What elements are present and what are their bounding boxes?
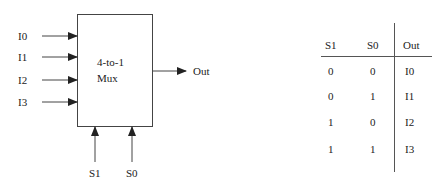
- cell-out: I3: [405, 143, 415, 155]
- output: Out: [152, 65, 210, 77]
- mux-box: [78, 15, 153, 127]
- select-label: S1: [89, 167, 101, 179]
- cell-s1: 1: [328, 116, 334, 128]
- cell-s1: 1: [328, 143, 334, 155]
- cell-s0: 0: [370, 116, 376, 128]
- table-row: 0 1 I1: [328, 90, 414, 102]
- input-label: I3: [18, 96, 28, 108]
- input-label: I0: [18, 30, 28, 42]
- table-row: 1 1 I3: [328, 143, 415, 155]
- cell-out: I0: [405, 65, 415, 77]
- input-i3: I3: [18, 96, 77, 108]
- truth-table: S1 S0 Out 0 0 I0 0 1 I1 1 0 I2 1 1 I3: [321, 23, 432, 172]
- header-s0: S0: [367, 39, 379, 51]
- cell-s1: 0: [328, 90, 334, 102]
- select-label: S0: [126, 167, 138, 179]
- select-s0: S0: [126, 127, 138, 179]
- input-label: I1: [18, 51, 27, 63]
- table-row: 1 0 I2: [328, 116, 414, 128]
- input-i1: I1: [18, 51, 77, 63]
- select-s1: S1: [89, 127, 101, 179]
- cell-out: I2: [405, 116, 414, 128]
- cell-s1: 0: [328, 65, 334, 77]
- header-out: Out: [403, 39, 420, 51]
- table-header: S1 S0 Out: [325, 39, 420, 51]
- mux-label-line2: Mux: [97, 72, 118, 84]
- header-s1: S1: [325, 39, 337, 51]
- table-row: 0 0 I0: [328, 65, 415, 77]
- cell-out: I1: [405, 90, 414, 102]
- cell-s0: 0: [370, 65, 376, 77]
- input-i0: I0: [18, 30, 77, 42]
- mux-diagram: 4-to-1 Mux I0 I1 I2 I3 Out S1 S0 S1 S0 O…: [0, 0, 442, 191]
- cell-s0: 1: [370, 90, 376, 102]
- cell-s0: 1: [370, 143, 376, 155]
- input-label: I2: [18, 74, 27, 86]
- mux-label-line1: 4-to-1: [97, 56, 124, 68]
- input-i2: I2: [18, 74, 77, 86]
- output-label: Out: [193, 65, 210, 77]
